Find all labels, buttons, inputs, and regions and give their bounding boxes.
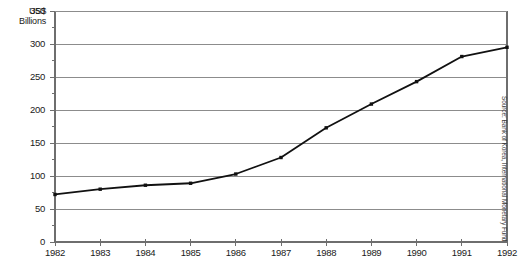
y-axis-ticks-group: [50, 11, 55, 242]
y-axis-tick-label-200: 200: [17, 105, 45, 115]
data-point-1984: [144, 184, 147, 187]
data-point-1983: [99, 188, 102, 191]
x-axis-tick-label-1991: 1991: [442, 248, 482, 258]
data-point-1992: [505, 46, 508, 49]
y-axis-tick-label-250: 250: [17, 72, 45, 82]
gridlines-group: [55, 11, 507, 209]
y-axis-tick-label-150: 150: [17, 138, 45, 148]
data-point-1988: [325, 126, 328, 129]
data-line: [55, 47, 507, 194]
x-axis-tick-label-1985: 1985: [171, 248, 211, 258]
y-axis-tick-label-300: 300: [17, 39, 45, 49]
y-axis-tick-label-50: 50: [17, 204, 45, 214]
x-axis-tick-label-1983: 1983: [80, 248, 120, 258]
x-axis-tick-label-1986: 1986: [216, 248, 256, 258]
source-note: Source: Bank of Korea, International Mon…: [501, 96, 508, 107]
source-note-wrapper: Source: Bank of Korea, International Mon…: [508, 96, 518, 236]
x-axis-tick-label-1989: 1989: [351, 248, 391, 258]
axis-lines-group: [55, 11, 507, 242]
x-axis-tick-label-1990: 1990: [397, 248, 437, 258]
x-axis-tick-label-1984: 1984: [125, 248, 165, 258]
data-line-group: [55, 47, 507, 194]
data-point-1982: [53, 193, 56, 196]
x-axis-tick-label-1987: 1987: [261, 248, 301, 258]
x-axis-tick-label-1988: 1988: [306, 248, 346, 258]
y-axis-tick-label-0: 0: [17, 237, 45, 247]
x-axis-tick-label-1982: 1982: [35, 248, 75, 258]
data-point-1985: [189, 182, 192, 185]
data-point-1986: [234, 172, 237, 175]
data-point-1990: [415, 80, 418, 83]
data-point-1991: [460, 55, 463, 58]
y-axis-tick-label-100: 100: [17, 171, 45, 181]
y-axis-tick-label-350: 350: [17, 6, 45, 16]
x-axis-tick-label-1992: 1992: [487, 248, 524, 258]
data-point-1989: [370, 102, 373, 105]
data-point-1987: [279, 156, 282, 159]
